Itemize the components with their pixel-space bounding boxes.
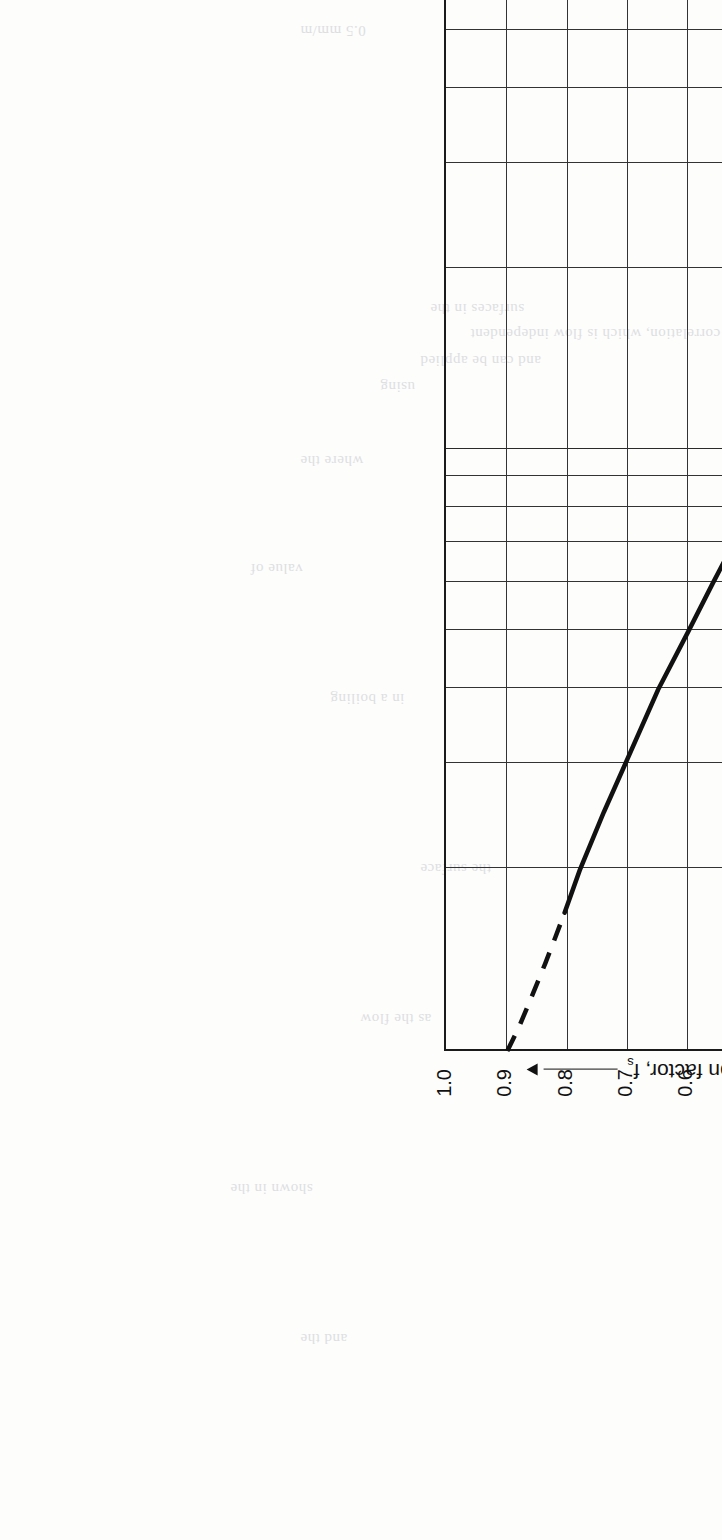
scanned-page: 0.5 mm/m surfaces in the correlation, wh…: [0, 0, 722, 1540]
y-axis-title: Suppression factor, fs: [423, 1055, 722, 1082]
showthrough-line: shown in the: [230, 1180, 313, 1197]
figure-rotated-180: 10⁴2345678910⁵2345678910⁶ 00.10.20.30.40…: [0, 0, 722, 722]
curve-dashed-low: [507, 913, 564, 1051]
showthrough-line: and the: [300, 1330, 347, 1347]
chart-canvas: 10⁴2345678910⁵2345678910⁶ 00.10.20.30.40…: [409, 0, 722, 1131]
curve-solid: [565, 90, 722, 913]
curve-layer: [444, 0, 722, 1051]
arrow-right-icon: [526, 1063, 537, 1075]
y-title-subscript: s: [627, 1055, 634, 1070]
y-axis-title-text: Suppression factor, fs: [627, 1060, 722, 1083]
axis-rule: [543, 1068, 617, 1070]
